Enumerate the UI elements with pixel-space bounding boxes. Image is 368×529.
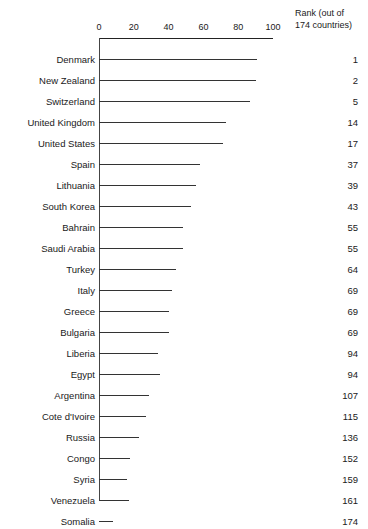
value-bar <box>99 59 257 60</box>
category-label: New Zealand <box>39 70 95 91</box>
chart-row: Syria159 <box>0 469 368 490</box>
x-tick-label: 40 <box>164 22 174 32</box>
category-label: Spain <box>71 154 95 175</box>
value-bar <box>99 416 146 417</box>
category-label: Cote d'Ivoire <box>42 406 95 427</box>
chart-row: Switzerland5 <box>0 91 368 112</box>
rank-value: 55 <box>298 238 358 259</box>
category-label: United States <box>38 133 95 154</box>
category-label: Bulgaria <box>60 322 95 343</box>
rank-value: 37 <box>298 154 358 175</box>
rank-value: 55 <box>298 217 358 238</box>
chart-row: Spain37 <box>0 154 368 175</box>
category-label: Liberia <box>66 343 95 364</box>
category-label: Denmark <box>56 49 95 70</box>
chart-row: Saudi Arabia55 <box>0 238 368 259</box>
value-bar <box>99 290 172 291</box>
chart-row: Venezuela161 <box>0 490 368 511</box>
value-bar <box>99 80 256 81</box>
value-bar <box>99 521 113 522</box>
rank-value: 14 <box>298 112 358 133</box>
x-tick-label: 80 <box>233 22 243 32</box>
rank-value: 2 <box>298 70 358 91</box>
rank-value: 69 <box>298 301 358 322</box>
value-bar <box>99 437 139 438</box>
category-label: Bahrain <box>62 217 95 238</box>
value-bar <box>99 353 158 354</box>
chart-row: Argentina107 <box>0 385 368 406</box>
rank-value: 115 <box>298 406 358 427</box>
rank-value: 64 <box>298 259 358 280</box>
value-bar <box>99 101 250 102</box>
chart-row: Greece69 <box>0 301 368 322</box>
category-label: Syria <box>73 469 95 490</box>
rank-value: 174 <box>298 511 358 529</box>
category-label: Congo <box>67 448 95 469</box>
chart-row: Denmark1 <box>0 49 368 70</box>
chart-row: South Korea43 <box>0 196 368 217</box>
rank-value: 94 <box>298 364 358 385</box>
chart-row: Liberia94 <box>0 343 368 364</box>
rank-value: 1 <box>298 49 358 70</box>
chart-row: United Kingdom14 <box>0 112 368 133</box>
rank-column-header: Rank (out of 174 countries) <box>295 7 367 31</box>
value-bar <box>99 458 130 459</box>
chart-row: Somalia174 <box>0 511 368 529</box>
value-bar <box>99 185 196 186</box>
rank-value: 159 <box>298 469 358 490</box>
x-tick-label: 60 <box>198 22 208 32</box>
value-bar <box>99 164 200 165</box>
category-label: Somalia <box>61 511 95 529</box>
chart-row: Cote d'Ivoire115 <box>0 406 368 427</box>
category-label: Lithuania <box>56 175 95 196</box>
rank-value: 161 <box>298 490 358 511</box>
x-tick-label: 20 <box>129 22 139 32</box>
chart-row: Italy69 <box>0 280 368 301</box>
category-label: United Kingdom <box>27 112 95 133</box>
value-bar <box>99 500 129 501</box>
category-label: Venezuela <box>51 490 95 511</box>
value-bar <box>99 122 226 123</box>
category-label: South Korea <box>42 196 95 217</box>
value-bar <box>99 248 183 249</box>
rank-header-line-2: 174 countries) <box>295 19 367 31</box>
category-label: Italy <box>78 280 95 301</box>
rank-value: 5 <box>298 91 358 112</box>
rank-value: 43 <box>298 196 358 217</box>
chart-row: New Zealand2 <box>0 70 368 91</box>
value-bar <box>99 311 169 312</box>
rank-value: 17 <box>298 133 358 154</box>
chart-row: Bulgaria69 <box>0 322 368 343</box>
category-label: Saudi Arabia <box>41 238 95 259</box>
chart-row: Egypt94 <box>0 364 368 385</box>
category-label: Switzerland <box>46 91 95 112</box>
category-label: Egypt <box>71 364 95 385</box>
rank-header-line-1: Rank (out of <box>295 7 367 19</box>
value-bar <box>99 395 149 396</box>
x-tick-label: 100 <box>265 22 280 32</box>
chart-row: Turkey64 <box>0 259 368 280</box>
rank-value: 136 <box>298 427 358 448</box>
value-bar <box>99 269 176 270</box>
rank-value: 69 <box>298 280 358 301</box>
chart-row: Lithuania39 <box>0 175 368 196</box>
rank-value: 94 <box>298 343 358 364</box>
value-bar <box>99 143 223 144</box>
value-bar <box>99 332 169 333</box>
rank-value: 69 <box>298 322 358 343</box>
x-tick-label: 0 <box>96 22 101 32</box>
x-axis-line <box>99 38 273 39</box>
category-label: Greece <box>64 301 95 322</box>
value-bar <box>99 206 191 207</box>
value-bar <box>99 227 183 228</box>
value-bar <box>99 374 160 375</box>
rank-value: 39 <box>298 175 358 196</box>
rank-value: 152 <box>298 448 358 469</box>
category-label: Argentina <box>54 385 95 406</box>
category-label: Russia <box>66 427 95 448</box>
chart-row: Congo152 <box>0 448 368 469</box>
chart-row: Russia136 <box>0 427 368 448</box>
category-label: Turkey <box>66 259 95 280</box>
rank-value: 107 <box>298 385 358 406</box>
